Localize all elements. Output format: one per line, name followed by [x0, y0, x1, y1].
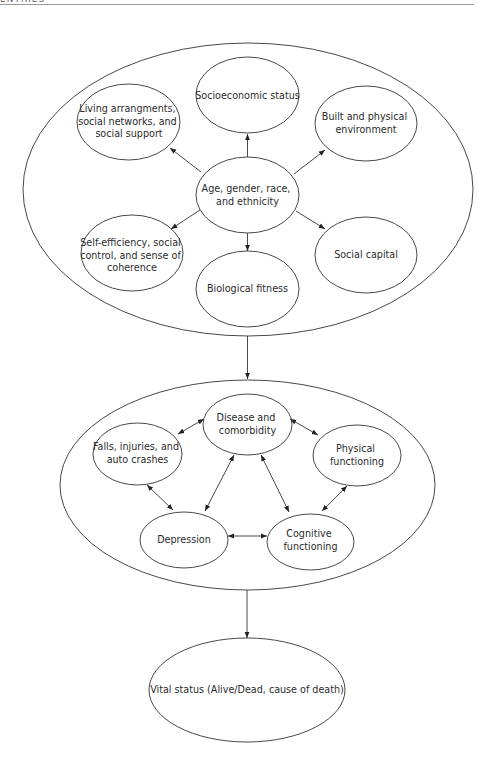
label-physical: Physical functioning [330, 443, 384, 467]
label-age: Age, gender, race, and ethnicity [202, 183, 294, 207]
label-falls: Falls, injuries, and auto crashes [93, 441, 182, 465]
label-vital: Vital status (Alive/Dead, cause of death… [150, 684, 344, 695]
label-ses: Socioeconomic status [195, 90, 300, 101]
edge-age-self [171, 210, 200, 229]
edge-age-capital [296, 211, 325, 229]
edge-physical-cognitive [322, 486, 347, 511]
edge-disease-physical [290, 419, 318, 435]
label-depression: Depression [157, 534, 211, 545]
conceptual-diagram: Socioeconomic status Living arrangments,… [0, 0, 477, 776]
edge-disease-depression [205, 455, 234, 511]
edge-falls-depression [147, 485, 173, 510]
label-self: Self-efficiency, social control, and sen… [80, 237, 184, 273]
label-cognitive: Cognitive functioning [283, 528, 337, 552]
edge-disease-cognitive [261, 455, 289, 512]
edge-disease-falls [178, 419, 204, 434]
label-bio: Biological fitness [207, 283, 288, 294]
label-living: Living arrangments, social networks, and… [78, 103, 180, 139]
edge-age-living [170, 148, 201, 172]
label-disease: Disease and comorbidity [217, 412, 279, 436]
label-built: Built and physical environment [322, 111, 410, 135]
edge-age-built [294, 150, 325, 174]
label-capital: Social capital [334, 249, 398, 260]
